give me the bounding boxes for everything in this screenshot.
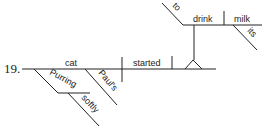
possessive-word: Paul's [96, 68, 120, 93]
infinitive-verb-word: drink [193, 14, 213, 24]
infinitive-marker-word: to [171, 1, 183, 13]
sentence-diagram: 19. cat started to drink milk its Paul's… [0, 0, 265, 134]
subject-word: cat [65, 58, 78, 68]
object-modifier-word: its [246, 26, 260, 40]
stilt-triangle [185, 60, 202, 69]
infinitive-object-word: milk [234, 14, 250, 24]
participle-word: Purring [48, 67, 78, 89]
sentence-number: 19. [4, 61, 20, 76]
adverb-word: softly [80, 93, 102, 116]
verb-word: started [133, 58, 161, 68]
